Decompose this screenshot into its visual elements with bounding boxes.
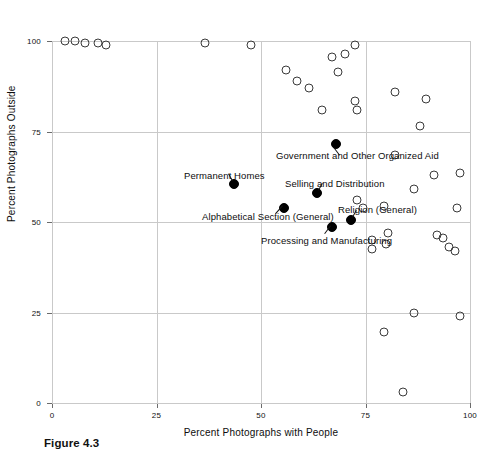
data-point bbox=[438, 234, 447, 243]
data-point bbox=[317, 105, 326, 114]
data-point bbox=[102, 40, 111, 49]
data-point-annotation: Processing and Manufacturing bbox=[261, 235, 392, 246]
data-point bbox=[200, 38, 209, 47]
y-axis-tick-label: 25 bbox=[32, 308, 41, 317]
figure-caption: Figure 4.3 bbox=[44, 437, 99, 449]
y-axis-tick bbox=[47, 41, 52, 42]
figure-container: 02550751000255075100 Percent Photographs… bbox=[0, 0, 498, 459]
data-point bbox=[455, 312, 464, 321]
data-point bbox=[409, 308, 418, 317]
x-axis-tick-label: 50 bbox=[256, 411, 265, 420]
data-point-annotation: Religion (General) bbox=[338, 204, 417, 215]
x-axis-tick-label: 25 bbox=[152, 411, 161, 420]
data-point bbox=[81, 38, 90, 47]
data-point bbox=[390, 87, 399, 96]
data-point bbox=[60, 37, 69, 46]
data-point bbox=[340, 49, 349, 58]
data-point bbox=[453, 203, 462, 212]
scatter-plot-area: 02550751000255075100 bbox=[52, 41, 470, 403]
data-point bbox=[380, 328, 389, 337]
data-point bbox=[451, 246, 460, 255]
gridline-horizontal bbox=[52, 403, 470, 404]
y-axis-tick-label: 100 bbox=[27, 37, 41, 46]
data-point bbox=[455, 169, 464, 178]
y-axis-tick bbox=[47, 132, 52, 133]
data-point bbox=[334, 67, 343, 76]
data-point bbox=[246, 40, 255, 49]
y-axis-tick-label: 75 bbox=[32, 127, 41, 136]
y-axis-tick-label: 50 bbox=[32, 218, 41, 227]
gridline-vertical bbox=[470, 41, 471, 403]
data-point-annotation: Permanent Homes bbox=[184, 170, 265, 181]
gridline-horizontal bbox=[52, 313, 470, 314]
y-axis-tick-label: 0 bbox=[36, 399, 41, 408]
gridline-horizontal bbox=[52, 222, 470, 223]
x-axis-tick-label: 0 bbox=[50, 411, 55, 420]
data-point bbox=[328, 53, 337, 62]
x-axis-tick-label: 100 bbox=[463, 411, 477, 420]
data-point bbox=[415, 122, 424, 131]
gridline-horizontal bbox=[52, 132, 470, 133]
gridline-horizontal bbox=[52, 41, 470, 42]
data-point bbox=[399, 388, 408, 397]
x-axis-tick bbox=[470, 403, 471, 408]
data-point bbox=[305, 84, 314, 93]
data-point bbox=[409, 185, 418, 194]
data-point bbox=[422, 94, 431, 103]
y-axis-tick bbox=[47, 313, 52, 314]
x-axis-tick-label: 75 bbox=[361, 411, 370, 420]
data-point bbox=[292, 76, 301, 85]
data-point-annotation: Alphabetical Section (General) bbox=[202, 211, 334, 222]
data-point bbox=[351, 96, 360, 105]
y-axis-title: Percent Photographs Outside bbox=[6, 85, 17, 222]
data-point bbox=[353, 105, 362, 114]
x-axis-title: Percent Photographs with People bbox=[52, 427, 470, 438]
y-axis-tick bbox=[47, 403, 52, 404]
data-point-annotation: Selling and Distribution bbox=[285, 178, 385, 189]
data-point-annotation: Government and Other Organized Aid bbox=[276, 150, 439, 161]
data-point bbox=[282, 65, 291, 74]
y-axis-tick bbox=[47, 222, 52, 223]
data-point bbox=[70, 37, 79, 46]
data-point bbox=[430, 170, 439, 179]
data-point bbox=[351, 40, 360, 49]
